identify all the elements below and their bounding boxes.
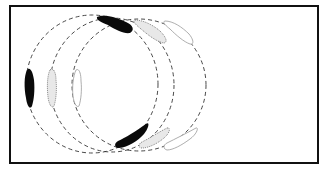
outline-figure-left bbox=[73, 70, 82, 107]
diagram-stage bbox=[0, 0, 329, 169]
orbit-diagram bbox=[0, 0, 329, 169]
